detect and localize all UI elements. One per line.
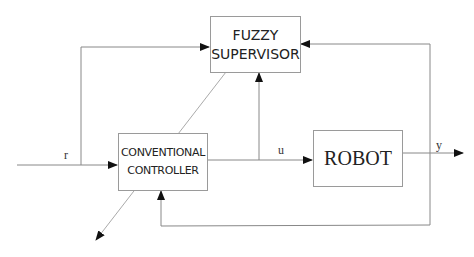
supervisor-label-line2: SUPERVISOR: [211, 45, 300, 64]
output-feedback-line: [161, 191, 430, 226]
control-signal-label: u: [278, 143, 284, 158]
robot-label: ROBOT: [324, 147, 392, 170]
fuzzy-supervisor-block: FUZZY SUPERVISOR: [210, 16, 301, 73]
block-diagram: FUZZY SUPERVISOR CONVENTIONAL CONTROLLER…: [0, 0, 474, 257]
controller-label-line2: CONTROLLER: [127, 162, 198, 180]
controller-label-line1: CONVENTIONAL: [121, 144, 205, 162]
supervisor-label-line1: FUZZY: [233, 26, 279, 45]
output-signal-label: y: [436, 138, 442, 153]
reference-signal-label: r: [64, 148, 68, 163]
robot-block: ROBOT: [313, 130, 403, 187]
conventional-controller-block: CONVENTIONAL CONTROLLER: [118, 133, 208, 191]
